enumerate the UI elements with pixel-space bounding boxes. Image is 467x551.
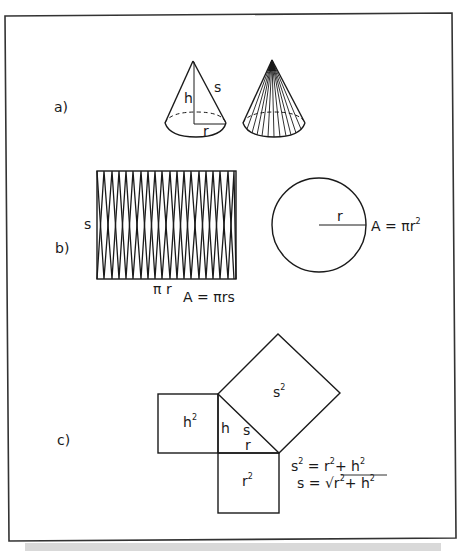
tri-s-label: s — [243, 422, 250, 438]
tri-h-label: h — [221, 420, 230, 436]
label-a: a) — [54, 99, 68, 115]
rect-base-label: π r — [153, 281, 172, 297]
circle-area-formula: A = πr2 — [371, 217, 421, 234]
cone-height-label: h — [184, 90, 193, 106]
slant-height-equation: s = √r2+ h2 — [297, 474, 375, 491]
rect-area-formula: A = πrs — [183, 289, 235, 305]
rect-side-label: s — [84, 216, 91, 232]
cone-slant-label: s — [214, 79, 221, 95]
cone-radius-label: r — [203, 123, 209, 139]
page-shadow — [25, 543, 441, 551]
tri-r-label: r — [245, 437, 251, 453]
label-b: b) — [55, 240, 69, 256]
cone-surface-area-diagram: a) h s r b) s — [0, 0, 467, 551]
circle-radius-label: r — [337, 208, 343, 224]
figure-frame — [5, 13, 456, 541]
label-c: c) — [57, 432, 70, 448]
